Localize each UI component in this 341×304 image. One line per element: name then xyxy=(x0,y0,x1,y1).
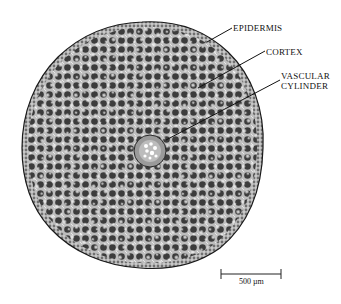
cross-section-illustration xyxy=(0,0,341,304)
vascular-cylinder-label-line1: VASCULAR xyxy=(281,71,330,81)
scale-bar-label: 500 µm xyxy=(239,277,264,286)
epidermis-label: EPIDERMIS xyxy=(233,23,282,33)
cortex-label: CORTEX xyxy=(266,47,303,57)
vascular-cylinder-label-line2: CYLINDER xyxy=(281,81,328,91)
vascular-cylinder xyxy=(134,135,166,167)
figure: EPIDERMIS CORTEX VASCULAR CYLINDER 500 µ… xyxy=(0,0,341,304)
epidermis-leader-line xyxy=(207,28,232,42)
